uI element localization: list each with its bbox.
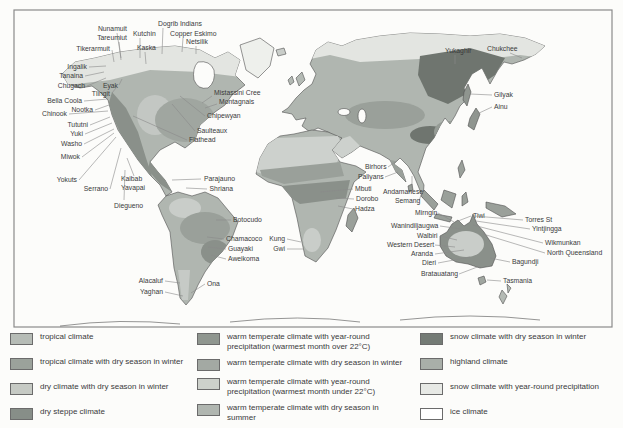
map-label: Parajauno [204, 175, 235, 183]
legend-item: warm temperate climate with year-round p… [197, 377, 420, 397]
map-label: Chamacoco [226, 235, 262, 242]
map-label: Wanindiljaugwa [391, 222, 439, 230]
legend-swatch [10, 358, 33, 370]
map-label: Bella Coola [47, 97, 82, 104]
tasmania-island [478, 276, 486, 285]
map-label: Paliyans [358, 173, 384, 181]
sumatra [421, 190, 438, 210]
map-label: Tanaina [59, 72, 83, 79]
map-label: Kung [269, 235, 285, 243]
map-label: Ona [207, 280, 220, 287]
map-label: Chinook [42, 110, 68, 117]
map-label: Gilyak [494, 91, 513, 99]
continents [40, 28, 560, 326]
map-label: Flathead [189, 136, 216, 143]
sulawesi [462, 192, 468, 206]
map-label: Dieri [422, 259, 436, 266]
legend-label: highland climate [450, 357, 508, 367]
map-label: Gwi [273, 245, 285, 252]
legend-swatch [420, 358, 443, 370]
map-label: Dogrib Indians [158, 20, 202, 28]
legend-item: warm temperate climate with dry season i… [197, 358, 420, 371]
map-label: Birhors [365, 163, 387, 170]
map-label: Tututni [67, 121, 88, 128]
legend-swatch [10, 408, 33, 420]
ireland [288, 76, 294, 85]
legend-swatch [197, 404, 220, 416]
legend-swatch [420, 383, 443, 395]
legend-item: snow climate with dry season in winter [420, 332, 613, 345]
japan [468, 108, 480, 130]
map-label: Nunamuit [98, 25, 127, 32]
legend-label: dry climate with dry season in winter [40, 382, 169, 392]
legend-label: warm temperate climate with year-round p… [227, 377, 405, 397]
map-label: Botocudo [233, 216, 262, 223]
legend-label: snow climate with dry season in winter [450, 332, 586, 342]
map-label: Tlingit [92, 90, 110, 98]
map-label: Saulteaux [197, 127, 228, 134]
legend-item: tropical climate with dry season in wint… [10, 357, 197, 370]
map-label: Netsilik [186, 38, 209, 45]
legend-item: warm temperate climate with dry season i… [197, 403, 420, 423]
legend-swatch [197, 359, 220, 371]
map-label: Nootka [71, 106, 93, 113]
legend-label: tropical climate [40, 332, 93, 342]
legend-swatch [420, 408, 443, 420]
map-label: Eyak [103, 82, 119, 90]
legend-column-3: snow climate with dry season in winterhi… [420, 332, 613, 428]
map-label: Mirngin [415, 209, 438, 217]
map-label: Washo [61, 140, 82, 147]
page-root: NunamuitTareumiutTikerarmuitDogrib India… [0, 0, 623, 428]
legend-swatch [420, 333, 443, 345]
map-label: Copper Eskimo [170, 30, 217, 38]
black-sea [338, 109, 350, 116]
map-label: Yintjingga [532, 225, 562, 233]
leader-line [487, 280, 501, 281]
map-label: Walbiri [417, 232, 438, 239]
map-label: Kaibab [121, 175, 142, 182]
philippines [458, 160, 465, 178]
borneo [441, 190, 456, 208]
map-label: Dorobo [356, 195, 379, 202]
climate-shading-australia [448, 231, 484, 257]
map-label: North Queensland [547, 249, 602, 257]
map-label: Western Desert [387, 241, 434, 248]
map-label: Tiwi [473, 212, 485, 219]
leader-line [477, 107, 492, 114]
leader-line [459, 266, 480, 274]
map-label: Alacaluf [139, 277, 163, 284]
leader-line [127, 158, 134, 176]
new-zealand-north [507, 284, 511, 293]
antarctica-coast [60, 316, 540, 326]
legend-column-2: warm temperate climate with year-round p… [197, 332, 420, 428]
leader-line [470, 94, 492, 95]
map-label: Hadza [355, 205, 375, 212]
world-map: NunamuitTareumiutTikerarmuitDogrib India… [0, 0, 623, 331]
map-label: Chukchee [487, 45, 518, 52]
map-label: Yuki [70, 130, 83, 137]
legend-label: warm temperate climate with year-round p… [227, 332, 405, 352]
map-label: Yukaghir [445, 47, 472, 55]
legend-item: dry climate with dry season in winter [10, 382, 197, 395]
caspian-sea [358, 109, 366, 123]
map-label: Ainu [494, 103, 508, 110]
map-label: Kaska [137, 44, 156, 51]
legend-label: dry steppe climate [40, 407, 105, 417]
legend-label: ice climate [450, 407, 488, 417]
legend-item: snow climate with year-round precipitati… [420, 382, 613, 395]
leader-line [186, 188, 207, 189]
legend-swatch [10, 333, 33, 345]
map-label: Guayaki [228, 245, 253, 253]
map-label: Wikmunkan [545, 239, 581, 246]
map-label: Ingalik [67, 63, 87, 71]
legend-item: highland climate [420, 357, 613, 370]
leader-line [385, 172, 398, 177]
legend-label: warm temperate climate with dry season i… [227, 403, 405, 423]
legend-swatch [197, 378, 220, 390]
greenland [240, 38, 274, 78]
map-label: Aranda [411, 250, 433, 257]
hudson-bay [194, 62, 215, 89]
map-label: Miwok [61, 153, 81, 160]
leader-line [287, 239, 301, 242]
map-label: Bagundji [512, 258, 539, 266]
